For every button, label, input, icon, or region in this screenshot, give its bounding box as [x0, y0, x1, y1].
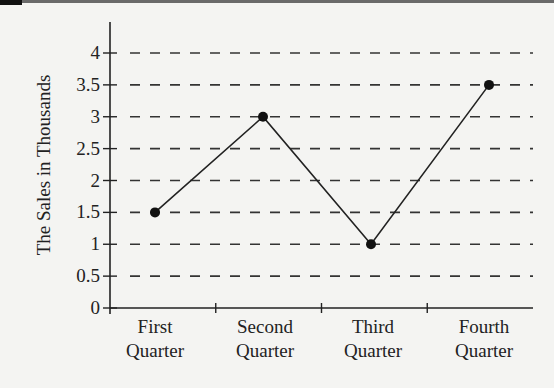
x-tick-label: First: [138, 316, 174, 337]
data-point: [366, 239, 376, 249]
line-chart: 00.511.522.533.54FirstQuarterSecondQuart…: [0, 0, 554, 388]
y-tick-label: 1: [91, 233, 101, 254]
x-tick-label: Quarter: [344, 340, 403, 361]
x-tick-label: Fourth: [459, 316, 510, 337]
x-tick-label: Quarter: [236, 340, 295, 361]
y-tick-label: 2: [91, 170, 101, 191]
y-tick-label: 1.5: [76, 201, 100, 222]
y-tick-label: 4: [91, 42, 101, 63]
series-line: [155, 85, 489, 244]
y-tick-label: 3: [91, 106, 101, 127]
x-tick-label: Second: [237, 316, 293, 337]
x-tick-label: Quarter: [455, 340, 514, 361]
data-point: [258, 112, 268, 122]
y-axis-title: The Sales in Thousands: [33, 75, 54, 256]
y-tick-label: 0: [91, 297, 101, 318]
y-tick-label: 3.5: [76, 74, 100, 95]
y-tick-label: 2.5: [76, 138, 100, 159]
data-point: [484, 80, 494, 90]
y-tick-label: 0.5: [76, 265, 100, 286]
x-tick-label: Third: [352, 316, 395, 337]
data-point: [150, 207, 160, 217]
x-tick-label: Quarter: [126, 340, 185, 361]
